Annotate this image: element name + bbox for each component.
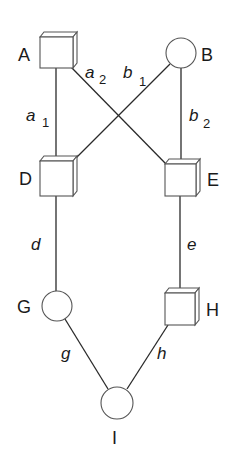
- node-B: B: [166, 38, 213, 68]
- edge-label-b1: b: [123, 63, 132, 82]
- edge-label-g: g: [61, 344, 71, 363]
- edge-label-a1: a: [26, 106, 35, 125]
- edge-sub-a1: 1: [42, 115, 49, 130]
- node-D: D: [19, 156, 77, 196]
- node-label-G: G: [17, 297, 31, 317]
- edge-sub-b1: 1: [139, 74, 146, 89]
- directed-graph-diagram: A B D E G H I a 1 a 2 b: [0, 0, 230, 465]
- node-label-A: A: [18, 45, 30, 65]
- node-label-H: H: [206, 300, 219, 320]
- edge-label-b2: b: [189, 106, 198, 125]
- node-E: E: [165, 159, 219, 196]
- edges: [56, 64, 181, 389]
- node-H: H: [165, 288, 219, 325]
- node-G: G: [17, 291, 72, 321]
- edge-label-h: h: [157, 344, 166, 363]
- node-A: A: [18, 32, 77, 68]
- edge-label-e: e: [187, 235, 196, 254]
- node-label-I: I: [112, 428, 117, 448]
- edge-label-a2: a: [85, 63, 94, 82]
- node-label-B: B: [201, 45, 213, 65]
- edge-g: [65, 319, 108, 389]
- node-label-E: E: [207, 170, 219, 190]
- edge-label-d: d: [31, 235, 41, 254]
- node-label-D: D: [19, 169, 32, 189]
- edge-sub-b2: 2: [203, 116, 210, 131]
- node-I: I: [101, 387, 133, 448]
- edge-sub-a2: 2: [99, 72, 106, 87]
